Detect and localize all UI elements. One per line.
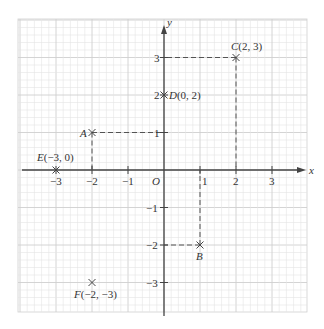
x-tick-label: 2 [233, 175, 239, 187]
origin-label: O [152, 175, 160, 187]
y-tick-label: −1 [146, 202, 158, 214]
x-tick-label: −3 [50, 175, 62, 187]
y-tick-label: 1 [154, 127, 160, 139]
point-label: D(0, 2) [168, 89, 201, 102]
x-tick-label: −1 [122, 175, 134, 187]
point-label: F(−2, −3) [73, 288, 117, 301]
point-label: C(2, 3) [231, 40, 263, 53]
y-axis-label: y [166, 16, 172, 28]
y-tick-label: −3 [146, 277, 158, 289]
x-tick-label: 1 [202, 175, 208, 187]
coordinate-grid-diagram: x y O −3−2−1123321−1−2−3 ABC(2, 3)D(0, 2… [0, 0, 324, 329]
grid-border [18, 19, 307, 312]
y-tick-label: 3 [154, 52, 160, 64]
x-axis-label: x [308, 164, 314, 176]
point-label: E(−3, 0) [36, 151, 74, 164]
point-label: A [79, 127, 87, 139]
y-tick-label: 2 [154, 89, 160, 101]
x-tick-label: 3 [269, 175, 275, 187]
grid-lines [18, 19, 307, 312]
point-label: B [196, 250, 203, 262]
x-tick-label: −2 [86, 175, 98, 187]
y-tick-label: −2 [146, 239, 158, 251]
